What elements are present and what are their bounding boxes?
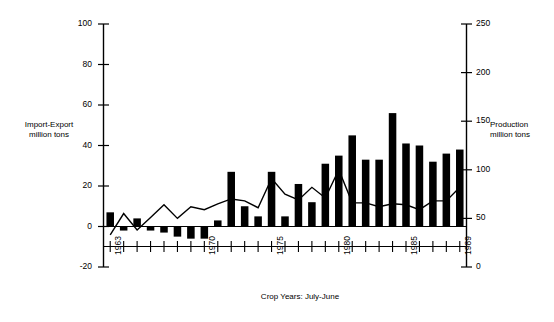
bar <box>281 216 289 226</box>
bar <box>348 135 356 226</box>
left-axis-title-line1: Import-Export <box>12 120 86 130</box>
bar <box>375 160 383 227</box>
left-tick-label: 40 <box>64 141 92 150</box>
bar <box>174 227 182 237</box>
bar <box>362 160 370 227</box>
x-tick-label: 1970 <box>208 236 217 255</box>
right-tick-label: 200 <box>476 68 506 77</box>
left-tick-label: -20 <box>64 262 92 271</box>
bar <box>429 162 437 227</box>
bar <box>389 113 397 226</box>
right-tick-label: 150 <box>476 116 506 125</box>
chart-figure: Import-Export million tons Production mi… <box>0 0 554 322</box>
bar <box>133 218 141 226</box>
bar <box>120 227 128 231</box>
bar <box>147 227 155 231</box>
bar <box>295 184 303 227</box>
bar <box>308 202 316 226</box>
left-tick-label: 60 <box>64 100 92 109</box>
left-tick-label: 100 <box>64 19 92 28</box>
x-tick-label: 1975 <box>276 236 285 255</box>
bar <box>160 227 168 233</box>
bar <box>416 146 424 227</box>
left-tick-label: 80 <box>64 60 92 69</box>
chart-plot-area <box>0 0 554 322</box>
bar <box>241 206 249 226</box>
x-axis-title: Crop Years: July-June <box>180 292 420 302</box>
right-tick-label: 250 <box>476 19 506 28</box>
x-tick-label: 1985 <box>410 236 419 255</box>
x-tick-label: 1980 <box>343 236 352 255</box>
bar <box>214 220 222 226</box>
left-tick-label: 0 <box>64 222 92 231</box>
bar <box>402 143 410 226</box>
bar-series <box>106 113 463 239</box>
right-tick-label: 100 <box>476 165 506 174</box>
axis-lines <box>104 24 467 267</box>
left-tick-label: 20 <box>64 181 92 190</box>
right-tick-label: 0 <box>476 262 506 271</box>
bar <box>187 227 195 239</box>
right-axis-title-line2: million tons <box>490 130 554 140</box>
left-axis-title: Import-Export million tons <box>12 120 86 140</box>
right-tick-label: 50 <box>476 213 506 222</box>
bar <box>443 154 451 227</box>
bar <box>106 212 114 226</box>
left-axis-title-line2: million tons <box>12 130 86 140</box>
bar <box>335 156 343 227</box>
x-tick-label: 1989 <box>464 236 473 255</box>
x-tick-label: 1963 <box>114 236 123 255</box>
bar <box>254 216 262 226</box>
